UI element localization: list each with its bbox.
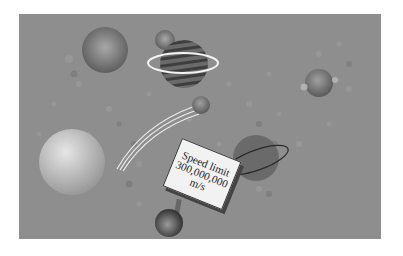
large-planet-top-left xyxy=(82,27,128,73)
sign-ball-base xyxy=(155,209,183,237)
space-scene-graphic xyxy=(19,14,381,239)
space-illustration: Speed limit 300,000,000 m/s xyxy=(19,14,381,239)
small-planet-right xyxy=(301,69,339,97)
large-pale-planet-left xyxy=(39,129,105,195)
